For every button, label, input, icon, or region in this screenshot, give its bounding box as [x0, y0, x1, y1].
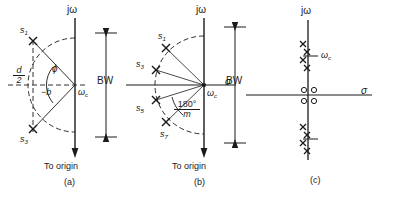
pole-marker — [304, 132, 310, 138]
center-point — [202, 83, 206, 87]
center-frequency-label: ωc — [78, 88, 88, 98]
real-axis-label: σ — [361, 86, 367, 96]
pole-label-s3: s3 — [20, 135, 28, 145]
angle-label-180-over-m: 180° m — [174, 100, 200, 120]
imaginary-axis-arrow — [201, 148, 208, 158]
pole-label-s7: s7 — [160, 130, 168, 140]
center-frequency-label: ωc — [321, 51, 331, 61]
angle-label-phi: ϕ — [52, 64, 58, 74]
imaginary-axis-label: jω — [301, 6, 311, 16]
imaginary-axis-label: jω — [67, 5, 77, 15]
imaginary-axis-label: jω — [196, 5, 206, 15]
panel-b: jω σ s1 s3 s5 s7 180° m ωc BW To origin … — [132, 0, 260, 197]
zero-marker — [311, 87, 316, 92]
pole-label-s1: s1 — [158, 32, 166, 42]
panel-a: jω s1 s3 d 2 ϕ −b ωc BW To origin (a) — [0, 0, 132, 197]
panel-c: jω σ ωc (c) — [260, 0, 395, 197]
zero-marker — [301, 87, 306, 92]
bandwidth-label: BW — [226, 76, 242, 86]
pole-marker-s7 — [162, 118, 170, 126]
sigma-offset-label: −b — [41, 88, 51, 97]
pole-marker — [300, 124, 306, 130]
imaginary-axis-arrow — [72, 148, 79, 158]
radius-line-s3 — [33, 85, 75, 129]
pole-label-s1: s1 — [20, 26, 28, 36]
zero-marker — [301, 98, 306, 103]
pole-marker-s1 — [162, 44, 170, 52]
pole-marker — [300, 140, 306, 146]
pole-marker — [304, 49, 310, 55]
pole-label-s5: s5 — [136, 104, 144, 114]
pole-marker-s3 — [152, 66, 160, 74]
pole-marker-s5 — [152, 96, 160, 104]
bandwidth-label: BW — [97, 76, 113, 86]
center-frequency-label: ωc — [207, 89, 217, 99]
to-origin-label: To origin — [172, 162, 206, 171]
panel-a-caption: (a) — [64, 178, 75, 187]
pole-marker — [300, 41, 306, 47]
to-origin-label: To origin — [44, 162, 78, 171]
pole-marker — [300, 57, 306, 63]
pole-marker — [304, 65, 310, 71]
zero-marker — [311, 98, 316, 103]
panel-b-caption: (b) — [194, 178, 205, 187]
pole-marker — [304, 148, 310, 154]
pole-label-s3: s3 — [136, 60, 144, 70]
radius-label-d-over-2: d 2 — [13, 66, 25, 86]
panel-c-caption: (c) — [310, 176, 321, 185]
panel-c-graphics — [260, 0, 395, 197]
